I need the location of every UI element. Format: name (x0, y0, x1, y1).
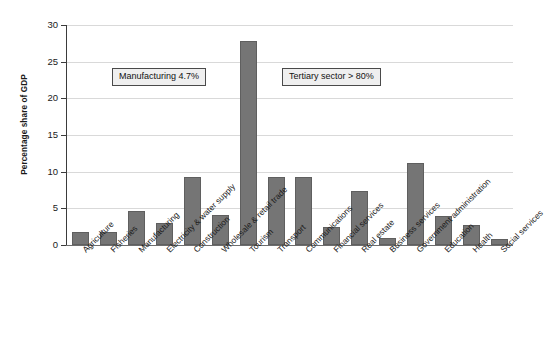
plot-area: 051015202530 (66, 25, 513, 245)
y-tick-mark (61, 98, 66, 99)
annotation-tertiary: Tertiary sector > 80% (282, 68, 381, 86)
y-tick-mark (61, 172, 66, 173)
y-tick-mark (61, 245, 66, 246)
bar-series (67, 25, 513, 245)
y-tick-label: 0 (32, 240, 58, 250)
annotation-manufacturing: Manufacturing 4.7% (112, 68, 206, 86)
x-axis-tick-labels: AgricultureFisheriesManufacturingElectri… (66, 248, 526, 360)
y-tick-label: 20 (32, 93, 58, 103)
y-tick-label: 30 (32, 20, 58, 30)
y-tick-label: 15 (32, 130, 58, 140)
y-tick-mark (61, 62, 66, 63)
y-tick-mark (61, 208, 66, 209)
y-tick-label: 10 (32, 167, 58, 177)
y-tick-mark (61, 135, 66, 136)
y-axis-title: Percentage share of GDP (20, 25, 29, 225)
y-tick-mark (61, 25, 66, 26)
y-tick-label: 5 (32, 203, 58, 213)
y-tick-label: 25 (32, 57, 58, 67)
